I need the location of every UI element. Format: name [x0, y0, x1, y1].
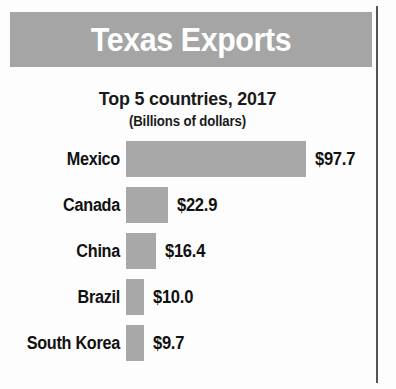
bar-category-label: South Korea — [12, 325, 120, 361]
bar — [126, 187, 168, 223]
bar — [126, 233, 156, 269]
bar-category-label: Canada — [12, 187, 120, 223]
bar-value-label: $16.4 — [165, 233, 205, 269]
bar-value-label: $9.7 — [153, 325, 184, 361]
bar-category-label: Brazil — [12, 279, 120, 315]
chart-title-banner: Texas Exports — [10, 12, 372, 67]
bar-plot-area: Mexico$97.7Canada$22.9China$16.4Brazil$1… — [0, 141, 376, 381]
bar-value-label: $97.7 — [315, 141, 355, 177]
chart-subtitle: Top 5 countries, 2017 — [21, 88, 355, 110]
texas-exports-chart: Texas Exports Top 5 countries, 2017 (Bil… — [0, 0, 396, 389]
bar-row: South Korea$9.7 — [0, 325, 376, 361]
column-divider-rule — [376, 6, 378, 383]
bar-value-label: $22.9 — [177, 187, 217, 223]
bar — [126, 141, 306, 177]
bar-row: Brazil$10.0 — [0, 279, 376, 315]
bar-category-label: Mexico — [12, 141, 120, 177]
chart-units-note: (Billions of dollars) — [21, 113, 355, 129]
bar — [126, 279, 144, 315]
chart-title: Texas Exports — [91, 21, 292, 59]
bar-value-label: $10.0 — [153, 279, 193, 315]
bar — [126, 325, 144, 361]
bar-row: Canada$22.9 — [0, 187, 376, 223]
bar-row: Mexico$97.7 — [0, 141, 376, 177]
bar-row: China$16.4 — [0, 233, 376, 269]
bar-category-label: China — [12, 233, 120, 269]
